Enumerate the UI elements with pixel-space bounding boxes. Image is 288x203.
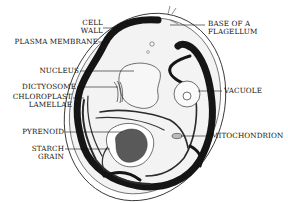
label-starch-grain: STARCH GRAIN <box>10 145 64 161</box>
mitochondrion-shape <box>172 133 182 138</box>
label-chloroplast-lamellae: CHLOROPLAST LAMELLAE <box>4 93 72 109</box>
label-nucleus: NUCLEUS <box>20 67 79 75</box>
label-line: DICTYOSOME <box>10 83 76 91</box>
label-dictyosome: DICTYOSOME <box>10 83 76 91</box>
label-line: NUCLEUS <box>20 67 79 75</box>
label-line: PLASMA MEMBRANE <box>10 38 98 46</box>
label-line: PYRENOID <box>10 128 64 136</box>
label-cell-wall: CELL WALL <box>63 19 103 35</box>
label-mitochondrion: MITOCHONDRION <box>211 132 283 140</box>
label-line: FLAGELLUM <box>208 28 257 36</box>
label-pyrenoid: PYRENOID <box>10 128 64 136</box>
label-line: GRAIN <box>10 153 64 161</box>
cell-diagram: CELL WALL PLASMA MEMBRANE NUCLEUS DICTYO… <box>0 0 288 203</box>
label-line: MITOCHONDRION <box>211 132 283 140</box>
label-vacuole: VACUOLE <box>224 87 262 95</box>
label-line: LAMELLAE <box>4 101 72 109</box>
label-line: WALL <box>63 27 103 35</box>
label-base-of-flagellum: BASE OF A FLAGELLUM <box>208 20 257 36</box>
label-plasma-membrane: PLASMA MEMBRANE <box>10 38 98 46</box>
label-line: VACUOLE <box>224 87 262 95</box>
